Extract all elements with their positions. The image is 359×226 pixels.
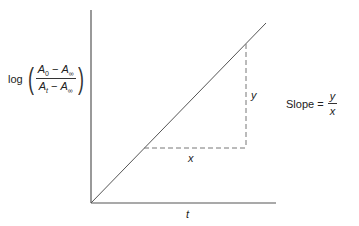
y-label-denominator: At − A∞ bbox=[37, 79, 75, 94]
rise-label: y bbox=[251, 89, 257, 101]
y-label-fraction: A0 − A∞ At − A∞ bbox=[36, 63, 76, 94]
diagram-canvas: log ( A0 − A∞ At − A∞ ) y x t Slope = y … bbox=[0, 0, 359, 226]
data-line bbox=[91, 23, 266, 203]
run-label: x bbox=[188, 152, 194, 164]
x-axis-label: t bbox=[186, 208, 189, 220]
log-label: log bbox=[8, 73, 23, 85]
left-paren: ( bbox=[28, 64, 34, 94]
slope-annotation: Slope = y x bbox=[286, 90, 337, 117]
y-label-numerator: A0 − A∞ bbox=[36, 63, 76, 79]
slope-label: Slope = bbox=[286, 98, 324, 110]
slope-fraction: y x bbox=[328, 90, 338, 117]
slope-numerator: y bbox=[328, 90, 338, 104]
right-paren: ) bbox=[78, 64, 84, 94]
y-axis-label: log ( A0 − A∞ At − A∞ ) bbox=[8, 63, 86, 94]
slope-denominator: x bbox=[328, 104, 338, 117]
